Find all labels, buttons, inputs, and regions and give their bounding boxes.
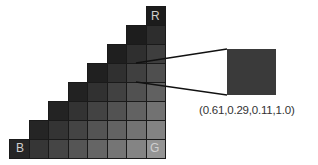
rgba-value-label: (0.61,0.29,0.11,1.0) <box>199 104 295 116</box>
magnified-color-swatch <box>227 49 276 95</box>
